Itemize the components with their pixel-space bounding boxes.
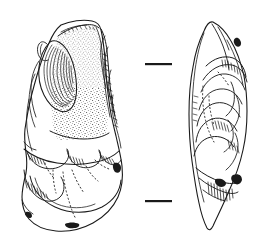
figure-container [0, 0, 258, 243]
scale-tick-upper [145, 63, 172, 65]
scale-tick-lower [145, 200, 172, 202]
lithic-artifact-illustration [0, 0, 258, 243]
